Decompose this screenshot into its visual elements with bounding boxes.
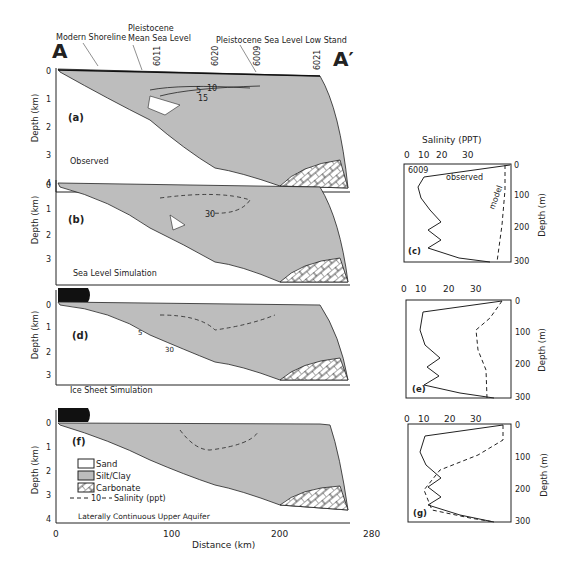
svg-text:300: 300	[515, 393, 530, 402]
svg-text:200: 200	[515, 485, 530, 494]
svg-text:300: 300	[514, 257, 529, 266]
svg-text:20: 20	[436, 150, 448, 160]
svg-text:(c): (c)	[408, 246, 421, 256]
svg-text:Depth (m): Depth (m)	[537, 328, 547, 372]
section-title-b: Sea Level Simulation	[73, 269, 157, 278]
svg-text:100: 100	[515, 453, 530, 462]
svg-text:Depth (m): Depth (m)	[537, 193, 547, 237]
section-title-a: Observed	[70, 157, 109, 166]
section-title-d: Ice Sheet Simulation	[70, 386, 153, 395]
svg-text:10: 10	[91, 494, 101, 503]
svg-text:100: 100	[514, 191, 529, 200]
svg-text:0: 0	[515, 421, 520, 430]
svg-text:model: model	[487, 184, 504, 210]
annotation-pleistocene-msl-2: Mean Sea Level	[128, 34, 191, 43]
marker-a-prime: A′	[333, 47, 354, 71]
svg-text:6009: 6009	[408, 166, 428, 175]
svg-text:Salinity (PPT): Salinity (PPT)	[422, 135, 482, 145]
svg-text:Depth (km): Depth (km)	[30, 446, 40, 494]
svg-text:30: 30	[470, 284, 482, 294]
section-b: 30 (b) Sea Level Simulation	[56, 180, 350, 285]
section-f: (f) Laterally Continuous Upper Aquifer S…	[56, 408, 350, 523]
panel-label-f: (f)	[72, 436, 86, 447]
svg-text:10: 10	[418, 150, 430, 160]
svg-text:15: 15	[198, 94, 208, 103]
svg-text:100: 100	[163, 529, 180, 539]
svg-text:10: 10	[415, 284, 427, 294]
svg-text:100: 100	[515, 328, 530, 337]
svg-text:200: 200	[271, 529, 288, 539]
svg-text:Depth (km): Depth (km)	[30, 196, 40, 244]
svg-text:Distance (km): Distance (km)	[192, 540, 255, 550]
svg-text:0: 0	[46, 181, 51, 190]
svg-text:Depth (km): Depth (km)	[30, 311, 40, 359]
profile-c: Salinity (PPT) 0 10 20 30 6009 observed …	[404, 135, 547, 266]
svg-text:Salinity (ppt): Salinity (ppt)	[114, 494, 166, 503]
depth-axes: Depth (km) Depth (km) Depth (km) Depth (…	[30, 67, 51, 524]
svg-text:2: 2	[46, 231, 51, 240]
svg-text:280: 280	[363, 529, 380, 539]
svg-text:300: 300	[515, 517, 530, 526]
annotation-modern-shoreline: Modern Shoreline	[56, 33, 126, 42]
svg-text:0: 0	[404, 150, 410, 160]
svg-text:1: 1	[46, 205, 51, 214]
svg-text:0: 0	[46, 67, 51, 76]
svg-text:2: 2	[46, 348, 51, 357]
svg-text:2: 2	[46, 123, 51, 132]
svg-text:1: 1	[46, 443, 51, 452]
well-6009: 6009	[253, 46, 262, 66]
svg-text:10: 10	[418, 414, 430, 424]
svg-text:200: 200	[514, 223, 529, 232]
svg-text:0: 0	[46, 419, 51, 428]
svg-text:Depth (m): Depth (m)	[539, 453, 549, 497]
panel-label-b: (b)	[68, 214, 84, 225]
svg-text:20: 20	[443, 284, 455, 294]
profile-g: 0 10 20 30 (g) 0 100 200 300 Depth (m)	[404, 414, 549, 526]
svg-text:4: 4	[46, 515, 51, 524]
well-6021: 6021	[313, 50, 322, 70]
svg-text:30: 30	[462, 150, 474, 160]
panel-label-a: (a)	[68, 112, 84, 123]
svg-text:30: 30	[205, 210, 215, 219]
svg-text:(g): (g)	[413, 508, 427, 518]
profile-e: 0 10 20 30 (e) 0 100 200 300 Depth (m)	[401, 284, 547, 402]
svg-text:0: 0	[53, 529, 59, 539]
svg-text:0: 0	[401, 284, 407, 294]
svg-text:observed: observed	[446, 173, 483, 182]
well-6011: 6011	[153, 46, 162, 66]
svg-text:Depth (km): Depth (km)	[30, 94, 40, 142]
section-d: 5 30 (d) Ice Sheet Simulation	[56, 288, 350, 395]
annotation-low-stand: Pleistocene Sea Level Low Stand	[216, 36, 347, 45]
svg-text:30: 30	[470, 414, 482, 424]
figure: A A′ Modern Shoreline Pleistocene Mean S…	[0, 0, 579, 566]
panel-label-d: (d)	[72, 330, 88, 341]
svg-text:2: 2	[46, 467, 51, 476]
svg-text:Carbonate: Carbonate	[96, 483, 140, 493]
svg-text:10: 10	[207, 84, 217, 93]
svg-text:3: 3	[46, 371, 51, 380]
well-6020: 6020	[211, 46, 220, 66]
svg-text:0: 0	[404, 414, 410, 424]
section-title-f: Laterally Continuous Upper Aquifer	[78, 512, 211, 521]
svg-text:20: 20	[444, 414, 456, 424]
svg-text:0: 0	[514, 161, 519, 170]
svg-text:30: 30	[165, 346, 174, 354]
svg-text:1: 1	[46, 95, 51, 104]
svg-text:(e): (e)	[412, 384, 426, 394]
svg-text:0: 0	[46, 301, 51, 310]
svg-text:5: 5	[138, 329, 142, 337]
svg-text:3: 3	[46, 255, 51, 264]
legend: Sand Silt/Clay Carbonate 10 Salinity (pp…	[70, 459, 166, 503]
section-a: 5 10 15 (a) Observed	[56, 68, 350, 192]
svg-text:3: 3	[46, 491, 51, 500]
svg-text:200: 200	[515, 360, 530, 369]
svg-text:1: 1	[46, 323, 51, 332]
svg-text:3: 3	[46, 151, 51, 160]
distance-axis: 0 100 200 280 Distance (km)	[53, 529, 380, 550]
svg-text:Sand: Sand	[96, 459, 117, 469]
marker-a: A	[52, 39, 68, 63]
annotation-pleistocene-msl: Pleistocene	[128, 24, 174, 33]
svg-text:Silt/Clay: Silt/Clay	[96, 471, 131, 481]
svg-text:0: 0	[515, 297, 520, 306]
